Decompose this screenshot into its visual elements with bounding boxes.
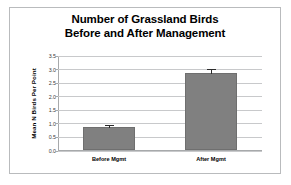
y-axis-tick-mark <box>55 56 58 57</box>
y-axis-tick-mark <box>55 69 58 70</box>
y-axis-tick-mark <box>55 151 58 152</box>
chart-figure: Number of Grassland Birds Before and Aft… <box>0 0 291 185</box>
error-bar-cap <box>207 69 216 70</box>
y-axis-tick-mark <box>55 123 58 124</box>
gridline <box>58 151 262 152</box>
y-axis-tick-label: 3.5 <box>40 53 56 59</box>
gridline <box>58 69 262 70</box>
bar <box>83 127 135 150</box>
gridline <box>58 56 262 57</box>
chart-title-line-1: Number of Grassland Birds <box>14 13 276 27</box>
y-axis-tick-labels: 0.00.51.01.52.02.53.03.5 <box>40 56 56 151</box>
plot-area <box>58 56 262 151</box>
y-axis-tick-label: 3.0 <box>40 67 56 73</box>
y-axis-tick-label: 0.5 <box>40 134 56 140</box>
y-axis-tick-label: 2.5 <box>40 80 56 86</box>
bar <box>185 73 237 150</box>
y-axis-tick-mark <box>55 83 58 84</box>
error-bar-cap <box>105 125 114 126</box>
y-axis-tick-mark <box>55 96 58 97</box>
x-axis-category-label: Before Mgmt <box>69 156 149 162</box>
y-axis-tick-label: 1.5 <box>40 107 56 113</box>
x-axis-category-label: After Mgmt <box>171 156 251 162</box>
chart-title-line-2: Before and After Management <box>14 27 276 41</box>
y-axis-tick-label: 2.0 <box>40 94 56 100</box>
y-axis-tick-label: 0.0 <box>40 148 56 154</box>
chart-title: Number of Grassland Birds Before and Aft… <box>14 13 276 40</box>
y-axis-tick-mark <box>55 137 58 138</box>
y-axis-label: Mean N Birds Per Point <box>30 54 37 154</box>
y-axis-tick-mark <box>55 110 58 111</box>
y-axis-tick-label: 1.0 <box>40 121 56 127</box>
